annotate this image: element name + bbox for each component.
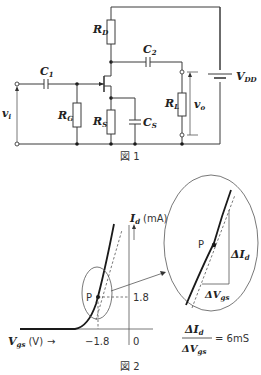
resistor-rg [73,103,81,127]
circuit-and-characteristic-diagram: RD C1 C2 RG RS CS RL VDD vi vo 図 1 [0,0,261,375]
label-vo: vo [194,98,205,112]
label-c2: C2 [143,43,157,57]
x-axis-label: Vgs(V)→ [8,335,55,349]
magnified-point-p [212,243,216,247]
input-terminal-top [15,82,19,86]
svg-text:ΔId: ΔId [184,323,204,337]
label-rg: RG [57,109,73,123]
figure-1-circuit: RD C1 C2 RG RS CS RL VDD vi vo 図 1 [2,7,258,162]
delta-vgs-label: ΔVgs [204,289,229,302]
label-c1: C1 [40,65,54,79]
svg-text:= 6mS: = 6mS [215,333,249,344]
svg-text:ΔVgs: ΔVgs [181,343,206,356]
resistor-rs [107,110,115,134]
label-vi: vi [2,107,11,121]
figure-1-caption: 図 1 [120,151,140,162]
resistor-rl [178,93,186,116]
transfer-curve [20,224,114,329]
output-terminal-top [180,70,184,74]
figure-2-caption: 図 2 [120,361,140,372]
origin-label: 0 [133,336,139,347]
tick-x-neg-1-8: −1.8 [85,336,109,347]
gm-equation: ΔId ΔVgs = 6mS [181,323,249,356]
magnified-curve [186,190,231,305]
point-p-label: P [86,292,92,303]
magnified-p-label: P [198,239,204,250]
label-rs: RS [92,115,107,129]
vi-arrow-icon [15,86,19,91]
label-cs: CS [143,116,157,130]
label-vdd: VDD [236,70,258,84]
figure-2-graph: P ΔId ΔVgs Id(mA) Vgs(V)→ P 1.8 −1.8 0 Δ… [8,175,258,372]
operating-point-p [96,295,100,299]
tangent-line [96,230,122,320]
input-terminal-bottom [15,142,19,146]
y-axis-label: Id(mA) [129,212,168,226]
vo-arrow-icon [188,72,192,77]
tick-y-1-8: 1.8 [133,292,149,303]
output-terminal-bottom [180,133,184,137]
label-rl: RL [164,97,179,111]
top-rail-wire [111,7,220,144]
delta-id-label: ΔId [230,248,250,262]
